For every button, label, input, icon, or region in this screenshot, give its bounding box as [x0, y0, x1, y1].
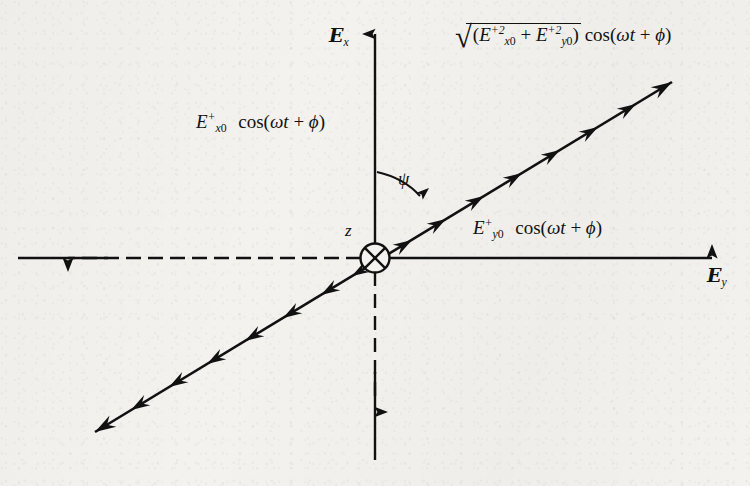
x-axis-label-subscript: x [343, 36, 348, 49]
resultant-term2-subscript: y0 [561, 35, 572, 48]
diagram-vector-canvas [0, 0, 750, 486]
x-component-field-label: E+x0 cos(ωt + ϕ) [196, 112, 325, 131]
resultant-term1-subscript: x0 [505, 35, 516, 48]
x-component-base: E [196, 111, 208, 132]
y-axis-label-subscript: y [721, 276, 726, 289]
x-axis-label: Ex [329, 26, 349, 45]
y-axis-label-glyph: E [707, 264, 721, 286]
y-component-subscript: y0 [493, 228, 504, 241]
radical-sign-icon: √ [455, 20, 472, 54]
x-component-cos: cos [238, 111, 263, 132]
y-component-superscript: + [485, 217, 493, 230]
x-component-superscript: + [208, 111, 216, 124]
x-axis-label-glyph: E [329, 24, 343, 46]
psi-angle-label: ψ [398, 170, 409, 188]
x-component-subscript: x0 [216, 122, 227, 135]
polarization-diagram: Ex Ey z ψ E+x0 cos(ωt + ϕ) E+y0 cos(ωt +… [0, 0, 750, 486]
y-axis-label: Ey [707, 266, 727, 285]
resultant-term2-base: E [536, 24, 548, 45]
z-axis-into-page-marker [361, 244, 390, 273]
z-axis-label: z [345, 222, 352, 239]
y-component-base: E [473, 217, 485, 238]
resultant-amplitude-label: √(E+2x0 + E+2y0) cos(ωt + ϕ) [455, 22, 671, 53]
y-component-cos: cos [515, 217, 540, 238]
square-root-group: √(E+2x0 + E+2y0) [455, 22, 579, 53]
vinculum-bar [466, 23, 581, 24]
resultant-term1-superscript: +2 [491, 24, 505, 37]
y-component-field-label: E+y0 cos(ωt + ϕ) [473, 218, 602, 237]
resultant-term1-base: E [479, 24, 491, 45]
resultant-cos: cos [585, 24, 610, 45]
resultant-term2-superscript: +2 [548, 24, 562, 37]
